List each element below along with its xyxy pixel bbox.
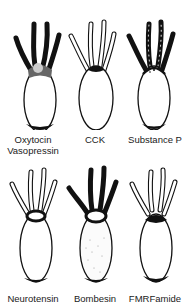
label-substance-p: Substance P bbox=[124, 134, 186, 145]
label-fmrfamide-text: FMRFamide bbox=[124, 293, 186, 304]
hydra-oxytocin-icon bbox=[2, 0, 64, 130]
hydra-substance-p-icon bbox=[124, 0, 186, 130]
hydra-bombesin-icon bbox=[64, 160, 126, 290]
label-vasopressin-line2: Vasopressin bbox=[2, 145, 64, 156]
label-fmrfamide: FMRFamide bbox=[124, 293, 186, 304]
label-bombesin-text: Bombesin bbox=[64, 293, 126, 304]
label-neurotensin-text: Neurotensin bbox=[2, 293, 64, 304]
label-substance-p-text: Substance P bbox=[124, 134, 186, 145]
label-bombesin: Bombesin bbox=[64, 293, 126, 304]
label-oxytocin-line1: Oxytocin bbox=[2, 134, 64, 145]
label-neurotensin: Neurotensin bbox=[2, 293, 64, 304]
label-oxytocin: Oxytocin Vasopressin bbox=[2, 134, 64, 156]
hydra-fmrfamide-icon bbox=[124, 160, 186, 290]
label-cck-text: CCK bbox=[64, 134, 126, 145]
hydra-cck-icon bbox=[64, 0, 126, 130]
label-cck: CCK bbox=[64, 134, 126, 145]
hydra-neurotensin-icon bbox=[2, 160, 64, 290]
